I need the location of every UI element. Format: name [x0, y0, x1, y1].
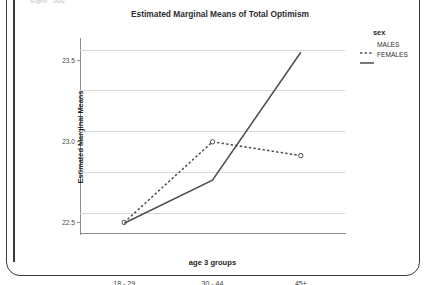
chart-title: Estimated Marginal Means of Total Optimi…: [95, 9, 345, 19]
data-point-marker: [299, 153, 303, 157]
y-axis-tick-label: 22.5: [62, 219, 75, 226]
legend-swatch: [360, 52, 374, 58]
x-axis-tick-label: 30 - 44: [202, 280, 224, 285]
legend-entry-males: MALES: [360, 40, 420, 49]
chart: Estimated Marginal Means of Total Optimi…: [0, 0, 424, 285]
series-line-females: [124, 52, 301, 223]
data-point-marker: [210, 140, 214, 144]
legend: sex MALESFEMALES: [360, 28, 420, 60]
legend-title: sex: [373, 28, 420, 37]
x-axis-tick-label: 45+: [295, 280, 307, 285]
x-axis-line: [80, 233, 346, 234]
series-layer: [80, 40, 345, 233]
legend-label: MALES: [377, 41, 399, 48]
plot-area: Estimated Marginal Means 21.522.022.523.…: [80, 40, 345, 233]
x-axis-title: age 3 groups: [80, 258, 345, 267]
legend-entries: MALESFEMALES: [360, 40, 420, 59]
y-axis-tick-label: 23.0: [62, 137, 75, 144]
legend-swatch: [360, 42, 374, 48]
x-axis-tick-label: 18 - 29: [113, 280, 135, 285]
legend-label: FEMALES: [377, 51, 408, 58]
legend-entry-females: FEMALES: [360, 50, 420, 59]
y-axis-tick-label: 23.5: [62, 56, 75, 63]
